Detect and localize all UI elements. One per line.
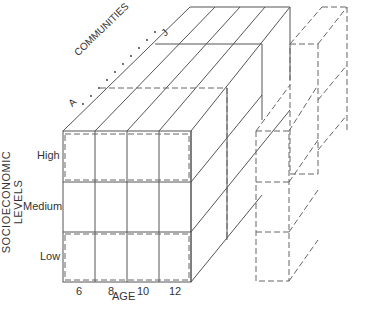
y-axis-label: SOCIOECONOMIC LEVELS [0, 132, 24, 272]
level-low: Low [40, 250, 60, 262]
age-tick-12: 12 [169, 285, 181, 297]
age-tick-6: 6 [76, 285, 82, 297]
level-medium: Medium [23, 200, 62, 212]
x-axis-label: AGE [112, 290, 135, 302]
age-tick-10: 10 [137, 285, 149, 297]
level-high: High [37, 149, 60, 161]
